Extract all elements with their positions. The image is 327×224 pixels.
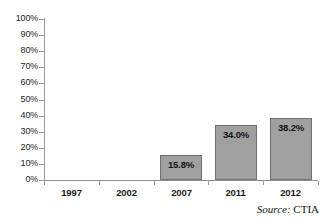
y-axis-tick-label: 70% — [2, 62, 38, 71]
y-axis-tick-label: 80% — [2, 46, 38, 55]
source-label: Source: — [257, 203, 291, 215]
x-axis-tick — [318, 181, 319, 185]
y-axis-tick-label: 90% — [2, 30, 38, 39]
x-axis-tick-label: 1997 — [44, 188, 99, 198]
y-axis-tick-label: 60% — [2, 78, 38, 87]
x-axis-tick — [154, 181, 155, 185]
y-axis-tick-label: 20% — [2, 143, 38, 152]
y-axis-tick-label: 40% — [2, 111, 38, 120]
bar-value-label: 15.8% — [161, 160, 201, 170]
x-axis-line — [44, 180, 318, 181]
x-axis-tick — [99, 181, 100, 185]
x-axis-tick-label: 2007 — [154, 188, 209, 198]
bar-value-label: 34.0% — [216, 130, 256, 140]
x-axis-tick-label: 2012 — [263, 188, 318, 198]
x-axis-tick-label: 2011 — [208, 188, 263, 198]
source-note: Source: CTIA — [257, 203, 319, 215]
y-axis-tick-label: 30% — [2, 127, 38, 136]
bar-chart-figure: 0%10%20%30%40%50%60%70%80%90%100% 15.8%3… — [0, 0, 327, 224]
x-axis-tick-label: 2002 — [99, 188, 154, 198]
bar: 15.8% — [160, 155, 202, 180]
x-axis-tick — [263, 181, 264, 185]
y-axis-tick-label: 50% — [2, 95, 38, 104]
y-axis-tick-label: 100% — [2, 14, 38, 23]
y-axis-tick-label: 0% — [2, 175, 38, 184]
source-value: CTIA — [293, 203, 319, 215]
y-axis-labels: 0%10%20%30%40%50%60%70%80%90%100% — [0, 0, 38, 224]
x-axis-tick — [44, 181, 45, 185]
bar: 34.0% — [215, 125, 257, 180]
plot-area: 15.8%34.0%38.2% — [44, 19, 318, 180]
x-axis-tick — [208, 181, 209, 185]
bar: 38.2% — [270, 118, 312, 180]
bar-value-label: 38.2% — [271, 123, 311, 133]
y-axis-tick-label: 10% — [2, 159, 38, 168]
